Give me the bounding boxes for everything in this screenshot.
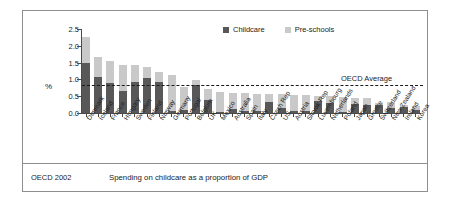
chart-figure: Childcare Pre-schools % 0.00.51.01.52.02… <box>22 10 428 192</box>
bar-segment-preschools <box>94 57 102 77</box>
x-tick-label: US <box>278 117 286 163</box>
y-tick-mark <box>77 63 81 64</box>
oecd-average-label: OECD Average <box>341 74 392 83</box>
bar-segment-childcare <box>82 63 90 113</box>
x-tick-label: France <box>106 117 114 163</box>
x-tick-label: Spain <box>241 117 249 163</box>
bar-segment-preschools <box>290 95 298 111</box>
bar-segment-preschools <box>119 65 127 91</box>
caption-text: Spending on childcare as a proportion of… <box>109 173 268 182</box>
bar-column[interactable] <box>82 29 90 113</box>
y-axis-label: % <box>45 82 52 91</box>
y-tick-mark <box>77 113 81 114</box>
figure-caption: OECD 2002 Spending on childcare as a pro… <box>23 163 427 191</box>
x-tick-label: Korea <box>412 117 420 163</box>
x-tick-label: Australia <box>229 117 237 163</box>
y-tick-mark <box>77 46 81 47</box>
x-tick-label: Greece <box>363 117 371 163</box>
bar-column[interactable] <box>253 29 261 113</box>
x-tick-label: Germany <box>168 117 176 163</box>
x-tick-label: Austria <box>290 117 298 163</box>
bar-segment-preschools <box>155 72 163 82</box>
x-tick-label: Portugal <box>180 117 188 163</box>
x-tick-label: Slovak Rep <box>302 117 310 163</box>
x-tick-label: Netherlands <box>326 117 334 163</box>
x-tick-label: Norway <box>155 117 163 163</box>
x-tick-label: New Zealand <box>387 117 395 163</box>
x-tick-label: Sweden <box>131 117 139 163</box>
x-tick-label: Belgium <box>192 117 200 163</box>
x-tick-label: Switzerland <box>375 117 383 163</box>
plot-area: Childcare Pre-schools % 0.00.51.01.52.02… <box>23 11 429 163</box>
x-tick-label: Hungary <box>119 117 127 163</box>
x-tick-label: Italy <box>253 117 261 163</box>
bar-segment-preschools <box>106 61 114 84</box>
x-tick-label: Poland <box>339 117 347 163</box>
x-tick-label: Denmark <box>82 117 90 163</box>
x-tick-label: Mexico <box>216 117 224 163</box>
x-tick-label: Luxembourg <box>314 117 322 163</box>
y-tick-mark <box>77 79 81 80</box>
x-tick-label: Ireland <box>400 117 408 163</box>
bar-segment-preschools <box>265 94 273 102</box>
bar-segment-preschools <box>143 67 151 79</box>
oecd-average-line <box>82 85 423 86</box>
bar-segment-preschools <box>82 37 90 62</box>
bar-column[interactable] <box>363 29 371 113</box>
x-tick-label: UK <box>204 117 212 163</box>
y-axis-tick-labels: 0.00.51.01.52.02.5 <box>53 29 79 113</box>
bar-column[interactable] <box>216 29 224 113</box>
x-axis-labels: DenmarkIcelandFranceHungarySwedenFinland… <box>82 117 420 163</box>
bar-segment-preschools <box>131 65 139 82</box>
x-tick-label: Czech Rep <box>265 117 273 163</box>
y-tick-mark <box>77 96 81 97</box>
y-tick-mark <box>77 29 81 30</box>
x-tick-label: Japan <box>351 117 359 163</box>
caption-source: OECD 2002 <box>31 173 71 182</box>
x-tick-label: Iceland <box>94 117 102 163</box>
bar-column[interactable] <box>265 29 273 113</box>
bar-column[interactable] <box>290 29 298 113</box>
x-tick-label: Finland <box>143 117 151 163</box>
